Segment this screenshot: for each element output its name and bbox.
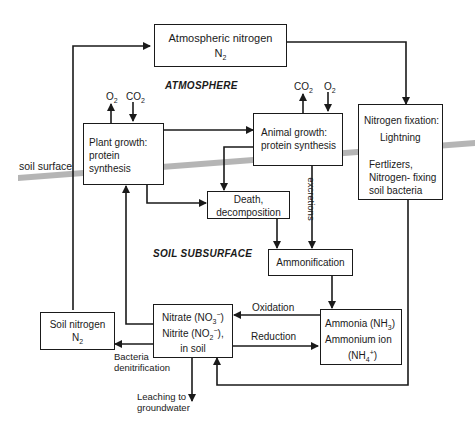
fixation-line4: Nitrogen- fixing	[369, 171, 442, 184]
ammonification-label: Ammonification	[269, 256, 352, 269]
fixation-line3: Fertlizers,	[369, 158, 442, 171]
leaching-label: Leaching to groundwater	[137, 391, 190, 413]
animal-o2-label: O2	[324, 81, 336, 93]
region-soil-subsurface: SOIL SUBSURFACE	[153, 248, 252, 259]
fixation-line2: Lightning	[380, 131, 442, 144]
fixation-line1: Nitrogen fixation:	[364, 114, 442, 127]
arrow-atmosphere-to-fixation	[286, 42, 406, 104]
animal-co2-label: CO2	[294, 81, 313, 93]
denitrification-label: Bacteria denitrification	[114, 351, 170, 373]
fixation-line5: soil bacteria	[369, 184, 442, 197]
node-nitrogen-fixation: Nitrogen fixation: Lightning Fertlizers,…	[358, 104, 443, 200]
arrow-nitrate-to-plant	[126, 186, 153, 324]
oxidation-label: Oxidation	[252, 302, 294, 314]
arrow-plant-to-death	[147, 185, 206, 203]
excretions-label: excretions	[305, 177, 317, 220]
plant-growth-line2: protein synthesis	[89, 149, 163, 175]
soil-surface-label: soil surface	[19, 160, 72, 172]
soil-nitrogen-formula: N2	[41, 331, 114, 344]
region-atmosphere: ATMOSPHERE	[165, 80, 238, 91]
arrow-animal-to-death	[224, 147, 253, 190]
plant-growth-line1: Plant growth:	[89, 136, 163, 149]
atmospheric-nitrogen-label: Atmospheric nitrogen	[155, 31, 286, 46]
ammonia-line3: (NH4+)	[348, 349, 401, 362]
ammonia-line2: Ammonium ion	[325, 333, 401, 346]
node-atmospheric-nitrogen: Atmospheric nitrogen N2	[154, 24, 287, 67]
death-line1: Death,	[208, 193, 289, 206]
node-death-decomposition: Death, decomposition	[207, 191, 290, 219]
reduction-label: Reduction	[251, 331, 296, 343]
nitrate-line: Nitrate (NO3−)	[154, 311, 232, 324]
node-plant-growth: Plant growth: protein synthesis	[83, 123, 164, 185]
soil-nitrogen-label: Soil nitrogen	[41, 318, 114, 331]
death-line2: decomposition	[208, 206, 289, 219]
ammonia-line1: Ammonia (NH3)	[325, 317, 401, 330]
node-animal-growth: Animal growth: protein synthesis	[253, 113, 343, 166]
node-nitrate-nitrite: Nitrate (NO3−) Nitrite (NO2−), in soil	[153, 304, 233, 358]
node-ammonification: Ammonification	[268, 249, 353, 276]
plant-o2-label: O2	[106, 91, 118, 103]
atmospheric-nitrogen-formula: N2	[155, 46, 286, 61]
animal-growth-line2: protein synthesis	[261, 139, 342, 152]
animal-growth-line1: Animal growth:	[261, 126, 342, 139]
nitrite-line: Nitrite (NO2−),	[154, 327, 232, 340]
node-soil-nitrogen: Soil nitrogen N2	[40, 312, 115, 350]
node-ammonia: Ammonia (NH3) Ammonium ion (NH4+)	[320, 309, 402, 365]
plant-co2-label: CO2	[126, 91, 145, 103]
